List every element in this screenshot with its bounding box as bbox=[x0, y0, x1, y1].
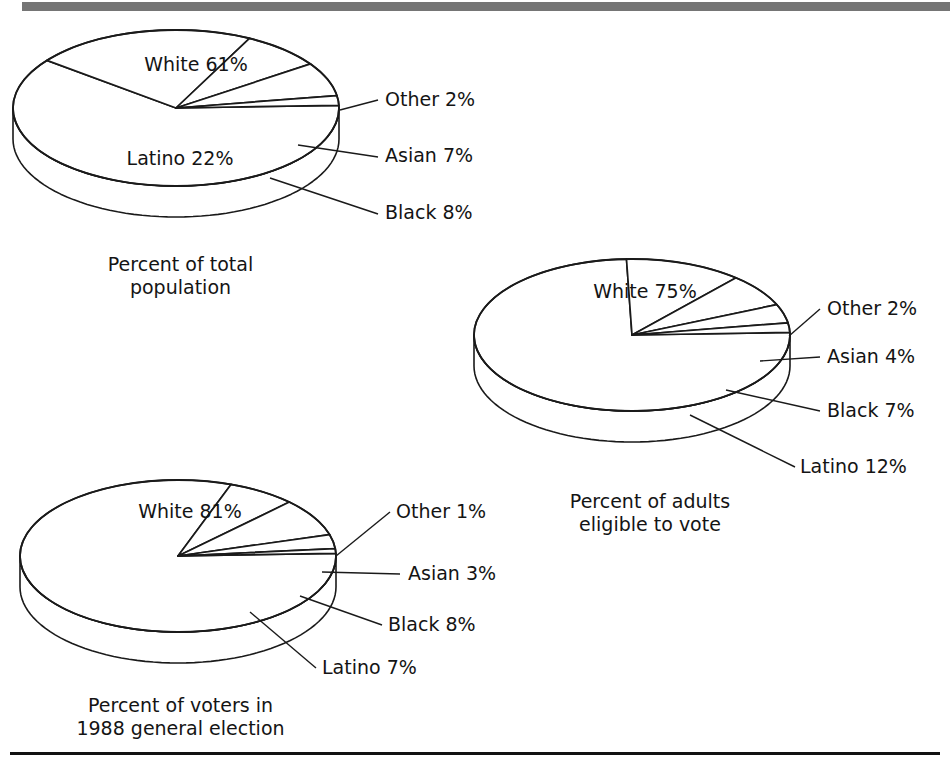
pie-label-inside: White 61% bbox=[144, 53, 248, 75]
pie-charts-svg: White 61%Latino 22%Other 2%Asian 7%Black… bbox=[0, 0, 950, 767]
top-rule-divider bbox=[22, 2, 950, 11]
pie-label-inside: White 75% bbox=[593, 280, 697, 302]
pie-label-leader: Asian 4% bbox=[827, 345, 915, 367]
caption-line: Percent of total bbox=[78, 253, 283, 276]
leader-line bbox=[336, 512, 390, 556]
figure-canvas: White 61%Latino 22%Other 2%Asian 7%Black… bbox=[0, 0, 950, 767]
pie-label-leader: Other 2% bbox=[385, 88, 475, 110]
caption-line: Percent of voters in bbox=[48, 694, 313, 717]
leader-line bbox=[340, 100, 378, 110]
caption-adults-eligible: Percent of adultseligible to vote bbox=[540, 490, 760, 536]
caption-line: population bbox=[78, 276, 283, 299]
caption-line: Percent of adults bbox=[540, 490, 760, 513]
pie-label-leader: Black 8% bbox=[385, 201, 473, 223]
leader-line bbox=[789, 309, 820, 336]
pie-label-leader: Black 7% bbox=[827, 399, 915, 421]
pie-label-leader: Asian 7% bbox=[385, 144, 473, 166]
caption-total-population: Percent of totalpopulation bbox=[78, 253, 283, 299]
leader-line bbox=[690, 415, 795, 467]
pie-label-leader: Asian 3% bbox=[408, 562, 496, 584]
pie-label-leader: Latino 12% bbox=[800, 455, 907, 477]
caption-line: eligible to vote bbox=[540, 513, 760, 536]
pie-label-leader: Other 1% bbox=[396, 500, 486, 522]
pie-label-leader: Other 2% bbox=[827, 297, 917, 319]
pie-label-inside: Latino 22% bbox=[127, 147, 234, 169]
pie-label-leader: Black 8% bbox=[388, 613, 476, 635]
caption-voters-1988: Percent of voters in1988 general electio… bbox=[48, 694, 313, 740]
caption-line: 1988 general election bbox=[48, 717, 313, 740]
bottom-rule-divider bbox=[10, 752, 940, 755]
pie-label-inside: White 81% bbox=[138, 500, 242, 522]
pie-label-leader: Latino 7% bbox=[322, 656, 417, 678]
